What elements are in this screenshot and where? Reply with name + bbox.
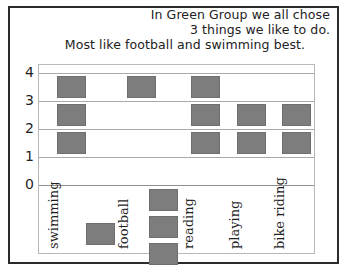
block-swimming-1 xyxy=(57,76,86,98)
block-reading-1 xyxy=(191,76,220,98)
title-line-2: 3 things we like to do. xyxy=(40,23,330,38)
y-axis: 4 3 2 1 0 xyxy=(14,60,36,258)
block-playing-2 xyxy=(237,132,266,154)
block-football-4-below-axis xyxy=(149,243,178,265)
block-swimming-4-below-axis xyxy=(86,223,115,245)
title-line-1: In Green Group we all chose xyxy=(40,8,330,23)
category-label-reading: reading xyxy=(181,198,196,249)
block-swimming-2 xyxy=(57,104,86,126)
plot-area: swimming football reading playing bike r… xyxy=(38,64,315,254)
block-bike-riding-1 xyxy=(282,104,311,126)
chart-title: In Green Group we all chose 3 things we … xyxy=(40,8,330,52)
y-tick-4: 4 xyxy=(14,65,34,79)
block-swimming-3 xyxy=(57,132,86,154)
block-reading-3 xyxy=(191,132,220,154)
gridline-1 xyxy=(39,157,314,158)
block-chart: 4 3 2 1 0 xyxy=(14,60,324,258)
category-label-swimming: swimming xyxy=(46,182,61,249)
gridline-3 xyxy=(39,101,314,102)
category-label-bike-riding: bike riding xyxy=(272,177,287,249)
block-bike-riding-2 xyxy=(282,132,311,154)
block-reading-2 xyxy=(191,104,220,126)
gridline-2 xyxy=(39,129,314,130)
category-label-football: football xyxy=(116,199,131,249)
block-football-3-below-axis xyxy=(149,216,178,238)
y-tick-0: 0 xyxy=(14,177,34,191)
block-playing-1 xyxy=(237,104,266,126)
y-tick-2: 2 xyxy=(14,121,34,135)
screenshot-root: In Green Group we all chose 3 things we … xyxy=(0,0,347,271)
block-football-1 xyxy=(127,76,156,98)
y-tick-1: 1 xyxy=(14,149,34,163)
title-line-3: Most like football and swimming best. xyxy=(40,38,330,53)
y-tick-3: 3 xyxy=(14,93,34,107)
block-football-2-below-axis xyxy=(149,189,178,211)
category-label-playing: playing xyxy=(227,201,242,249)
gridline-4 xyxy=(39,73,314,74)
